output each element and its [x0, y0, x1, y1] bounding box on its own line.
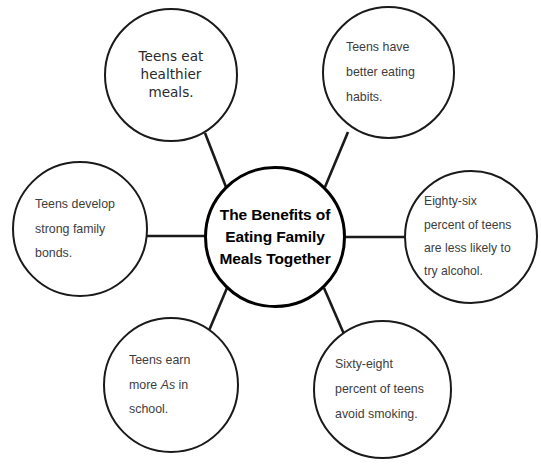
- connector-center-to-top-left: [205, 133, 226, 187]
- node-teens-eat-healthier-meals[interactable]: Teens eat healthier meals.: [104, 8, 238, 142]
- node-eighty-six-percent-less-likely-alcohol[interactable]: Eighty-six percent of teens are less lik…: [404, 170, 538, 304]
- node-bottom-left-grade-letter: As: [161, 378, 175, 392]
- node-bottom-right-text: Sixty-eight percent of teens avoid smoki…: [315, 352, 450, 426]
- node-left-line3: bonds.: [35, 246, 72, 260]
- node-bottom-left-line3: school.: [129, 402, 168, 416]
- node-bottom-right-line1: Sixty-eight: [335, 357, 393, 371]
- node-right-line2: percent of teens: [424, 218, 511, 232]
- node-left-line1: Teens develop: [35, 197, 115, 211]
- center-label: The Benefits of Eating Family Meals Toge…: [207, 204, 343, 270]
- node-left-line2: strong family: [35, 222, 105, 236]
- node-bottom-left-line2-post: in: [175, 378, 188, 392]
- node-right-line4: try alcohol.: [424, 264, 483, 278]
- node-left-text: Teens develop strong family bonds.: [14, 192, 146, 266]
- diagram-canvas: Teens eat healthier meals. Teens have be…: [0, 0, 541, 467]
- node-top-right-line2: better eating: [346, 65, 415, 79]
- node-top-left-text: Teens eat healthier meals.: [106, 48, 236, 102]
- node-right-line3: are less likely to: [424, 241, 511, 255]
- connector-center-to-top-right: [325, 132, 348, 187]
- node-bottom-right-line2: percent of teens: [335, 382, 424, 396]
- node-bottom-left-line2-pre: more: [129, 378, 161, 392]
- node-teens-develop-strong-family-bonds[interactable]: Teens develop strong family bonds.: [12, 161, 148, 297]
- node-right-line1: Eighty-six: [424, 194, 477, 208]
- node-center-benefits-of-eating-family-meals[interactable]: The Benefits of Eating Family Meals Toge…: [204, 166, 346, 308]
- node-top-right-line1: Teens have: [346, 40, 409, 54]
- node-bottom-right-line3: avoid smoking.: [335, 407, 418, 421]
- node-right-text: Eighty-six percent of teens are less lik…: [406, 190, 536, 284]
- node-top-left-line1: Teens eat: [139, 48, 204, 64]
- node-top-left-line2: healthier meals.: [141, 66, 202, 100]
- node-teens-have-better-eating-habits[interactable]: Teens have better eating habits.: [322, 6, 455, 139]
- node-sixty-eight-percent-avoid-smoking[interactable]: Sixty-eight percent of teens avoid smoki…: [313, 320, 452, 459]
- node-top-right-line3: habits.: [346, 90, 383, 104]
- node-teens-earn-more-as-in-school[interactable]: Teens earn more As in school.: [103, 317, 239, 453]
- node-top-right-text: Teens have better eating habits.: [324, 35, 453, 109]
- node-bottom-left-text: Teens earn more As in school.: [105, 348, 237, 422]
- node-bottom-left-line1: Teens earn: [129, 353, 190, 367]
